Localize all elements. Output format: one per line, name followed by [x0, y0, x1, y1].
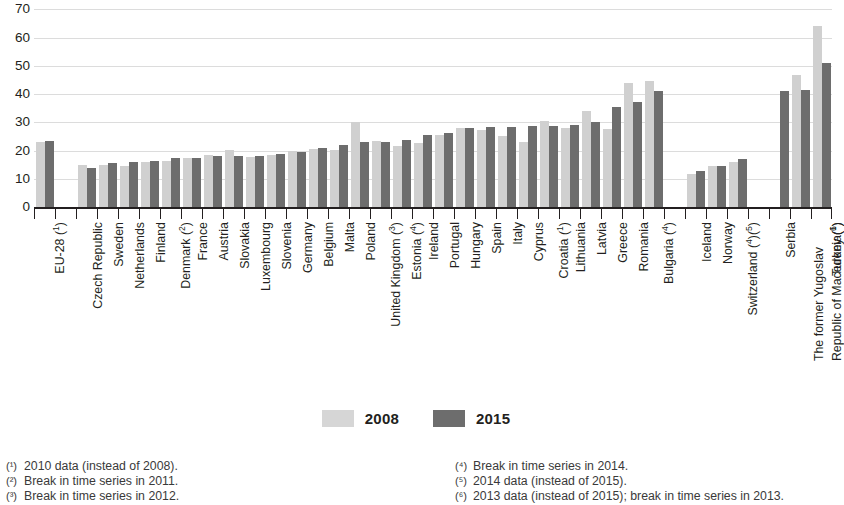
y-tick-label-30: 30 [0, 115, 30, 129]
bar-group [433, 1, 454, 208]
x-tick [391, 207, 392, 219]
footnote-1: (¹)2010 data (instead of 2008). [6, 459, 383, 474]
chart-legend: 2008 2015 [0, 410, 832, 427]
x-category-label: Malta [344, 222, 356, 252]
y-tick-label-50: 50 [0, 59, 30, 73]
footnote-text-2: Break in time series in 2011. [24, 474, 178, 488]
x-category-label: Croatia (1) [554, 222, 571, 278]
bar-2008 [225, 150, 234, 208]
x-tick [202, 207, 203, 219]
x-tick [831, 207, 832, 219]
x-tick [286, 207, 287, 219]
x-category-label: Denmark (2) [176, 222, 193, 289]
x-tick [139, 207, 140, 219]
bar-group [559, 1, 580, 208]
bar-2015 [381, 142, 390, 208]
x-category-label: Netherlands [134, 222, 146, 289]
x-tick [769, 207, 770, 219]
legend-label-2015: 2015 [476, 410, 510, 427]
x-tick [538, 207, 539, 219]
footnote-marker-1: (¹) [6, 459, 24, 474]
bar-group [412, 1, 433, 208]
bar-2015 [318, 148, 327, 208]
bar-group [349, 1, 370, 208]
bar-2008 [477, 130, 486, 208]
footnote-marker-3: (³) [6, 489, 24, 504]
legend-item-2015: 2015 [433, 410, 510, 427]
bar-2015 [549, 126, 558, 208]
bar-group [139, 1, 160, 208]
bar-2015 [339, 145, 348, 208]
bar-2015 [507, 127, 516, 208]
x-tick [706, 207, 707, 219]
x-tick [34, 207, 35, 219]
x-tick [454, 207, 455, 219]
bar-group [769, 1, 790, 208]
footnote-text-6: 2013 data (instead of 2015); break in ti… [473, 489, 784, 503]
x-tick [643, 207, 644, 219]
x-category-label: Switzerland (4)(5) [743, 222, 760, 316]
bar-2008 [120, 166, 129, 208]
bar-2015 [150, 161, 159, 208]
bar-2008 [372, 141, 381, 208]
x-category-label: Portugal [449, 222, 461, 268]
bar-2015 [654, 91, 663, 208]
bar-group [685, 1, 706, 208]
x-category-label: Cyprus [533, 222, 545, 261]
bar-2015 [780, 91, 789, 208]
footnote-text-3: Break in time series in 2012. [24, 489, 179, 503]
bar-2015 [171, 158, 180, 208]
bar-2015 [486, 127, 495, 208]
bar-group [517, 1, 538, 208]
bar-2008 [582, 111, 591, 208]
x-category-label: Luxembourg [260, 222, 272, 291]
x-tick [118, 207, 119, 219]
bar-2015 [570, 125, 579, 208]
bar-2008 [519, 142, 528, 208]
bar-2015 [129, 162, 138, 208]
x-tick [685, 207, 686, 219]
bar-2015 [255, 156, 264, 208]
bar-2015 [360, 142, 369, 208]
x-tick [475, 207, 476, 219]
x-tick [727, 207, 728, 219]
legend-label-2008: 2008 [365, 410, 399, 427]
x-tick [160, 207, 161, 219]
x-category-label: Spain [491, 222, 503, 254]
bar-group [286, 1, 307, 208]
bar-2008 [267, 155, 276, 208]
x-category-label: Estonia (4) [407, 222, 424, 280]
y-tick-label-40: 40 [0, 87, 30, 101]
y-tick-label-0: 0 [0, 200, 30, 214]
x-tick [55, 207, 56, 219]
bar-2008 [204, 155, 213, 208]
x-tick [790, 207, 791, 219]
bar-2008 [183, 158, 192, 208]
bar-2015 [633, 102, 642, 208]
bar-2015 [297, 152, 306, 209]
bar-group [370, 1, 391, 208]
bar-group [97, 1, 118, 208]
bar-2008 [498, 136, 507, 208]
bar-group [76, 1, 97, 208]
bar-group [643, 1, 664, 208]
bar-group [538, 1, 559, 208]
x-category-label: EU-28 (1) [50, 222, 67, 274]
bar-group [454, 1, 475, 208]
bar-2015 [717, 166, 726, 208]
x-category-label: Ireland [428, 222, 440, 260]
x-category-label: Italy [512, 222, 524, 245]
y-tick-label-70: 70 [0, 2, 30, 16]
bar-2008 [792, 75, 801, 208]
bar-group [202, 1, 223, 208]
bar-2008 [645, 81, 654, 208]
y-tick-label-60: 60 [0, 31, 30, 45]
x-tick [307, 207, 308, 219]
bar-2008 [813, 26, 822, 208]
bar-2008 [246, 157, 255, 208]
bar-2015 [612, 107, 621, 208]
footnote-marker-4: (⁴) [455, 459, 473, 474]
x-tick [328, 207, 329, 219]
bar-2015 [696, 171, 705, 208]
bar-2015 [528, 126, 537, 208]
